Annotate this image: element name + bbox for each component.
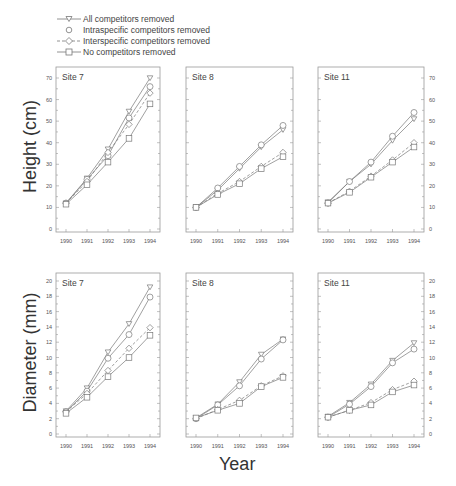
svg-text:0: 0	[49, 431, 52, 437]
panel-site-11-diameter: 0246810121416182019901991199219931994Sit…	[318, 273, 435, 449]
panel-site-7-height: 01020304050607019901991199219931994Site …	[46, 67, 160, 244]
panel-site-8-height: 19901991199219931994Site 8	[186, 67, 293, 244]
svg-text:Site 11: Site 11	[324, 278, 350, 288]
svg-text:1992: 1992	[233, 443, 245, 449]
svg-text:8: 8	[49, 370, 52, 376]
svg-text:1994: 1994	[408, 443, 420, 449]
panel-site-8-diameter: 19901991199219931994Site 8	[186, 273, 293, 449]
svg-text:1992: 1992	[102, 238, 114, 244]
svg-text:16: 16	[429, 309, 435, 315]
svg-text:4: 4	[429, 400, 432, 406]
svg-text:10: 10	[46, 355, 52, 361]
svg-text:10: 10	[46, 204, 52, 210]
svg-text:50: 50	[429, 118, 435, 124]
svg-text:1993: 1993	[255, 443, 267, 449]
x-axis-label-year: Year	[219, 454, 255, 475]
svg-text:1991: 1991	[81, 238, 93, 244]
svg-text:20: 20	[429, 183, 435, 189]
svg-text:0: 0	[429, 431, 432, 437]
svg-text:10: 10	[429, 355, 435, 361]
svg-text:1993: 1993	[386, 443, 398, 449]
svg-text:18: 18	[429, 293, 435, 299]
svg-text:Site 8: Site 8	[192, 72, 214, 82]
svg-text:14: 14	[429, 324, 435, 330]
svg-text:2: 2	[49, 416, 52, 422]
panel-site-11-height: 01020304050607019901991199219931994Site …	[318, 67, 435, 244]
svg-text:1990: 1990	[190, 238, 202, 244]
svg-text:Site 7: Site 7	[62, 278, 84, 288]
svg-text:1992: 1992	[102, 443, 114, 449]
svg-text:18: 18	[46, 293, 52, 299]
svg-text:6: 6	[49, 385, 52, 391]
panel-site-7-diameter: 0246810121416182019901991199219931994Sit…	[46, 273, 160, 449]
svg-text:1992: 1992	[365, 238, 377, 244]
svg-text:6: 6	[429, 385, 432, 391]
y-axis-label-height: Height (cm)	[20, 97, 41, 197]
svg-text:1991: 1991	[81, 443, 93, 449]
svg-text:1991: 1991	[343, 238, 355, 244]
svg-text:Site 8: Site 8	[192, 278, 214, 288]
svg-text:20: 20	[429, 278, 435, 284]
svg-text:60: 60	[46, 97, 52, 103]
svg-text:1994: 1994	[277, 238, 289, 244]
svg-text:0: 0	[49, 226, 52, 232]
svg-text:1994: 1994	[408, 238, 420, 244]
svg-text:4: 4	[49, 400, 52, 406]
svg-text:12: 12	[429, 339, 435, 345]
svg-text:30: 30	[46, 161, 52, 167]
svg-text:0: 0	[429, 226, 432, 232]
svg-text:1992: 1992	[365, 443, 377, 449]
svg-text:20: 20	[46, 183, 52, 189]
svg-text:40: 40	[46, 140, 52, 146]
svg-text:1994: 1994	[144, 443, 156, 449]
svg-text:1991: 1991	[212, 443, 224, 449]
svg-text:8: 8	[429, 370, 432, 376]
svg-text:30: 30	[429, 161, 435, 167]
svg-text:1992: 1992	[233, 238, 245, 244]
svg-text:12: 12	[46, 339, 52, 345]
figure-panels: 01020304050607019901991199219931994Site …	[0, 0, 456, 486]
svg-text:1990: 1990	[60, 238, 72, 244]
svg-text:1993: 1993	[123, 443, 135, 449]
svg-text:14: 14	[46, 324, 52, 330]
svg-text:1990: 1990	[322, 238, 334, 244]
svg-text:20: 20	[46, 278, 52, 284]
y-axis-label-diameter: Diameter (mm)	[20, 289, 41, 417]
svg-text:1994: 1994	[277, 443, 289, 449]
svg-text:1993: 1993	[123, 238, 135, 244]
svg-text:1991: 1991	[343, 443, 355, 449]
svg-text:1993: 1993	[255, 238, 267, 244]
svg-text:1990: 1990	[190, 443, 202, 449]
svg-text:1991: 1991	[212, 238, 224, 244]
svg-text:40: 40	[429, 140, 435, 146]
svg-text:70: 70	[429, 75, 435, 81]
svg-text:1990: 1990	[322, 443, 334, 449]
svg-text:16: 16	[46, 309, 52, 315]
svg-text:Site 11: Site 11	[324, 72, 350, 82]
svg-text:2: 2	[429, 416, 432, 422]
svg-text:60: 60	[429, 97, 435, 103]
svg-text:10: 10	[429, 204, 435, 210]
svg-text:1990: 1990	[60, 443, 72, 449]
svg-text:1994: 1994	[144, 238, 156, 244]
svg-text:70: 70	[46, 75, 52, 81]
svg-text:1993: 1993	[386, 238, 398, 244]
svg-text:50: 50	[46, 118, 52, 124]
svg-text:Site 7: Site 7	[62, 72, 84, 82]
